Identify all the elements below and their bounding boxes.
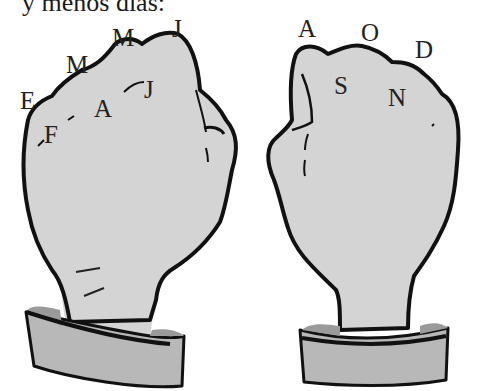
month-label-s: S xyxy=(334,73,348,98)
month-label-m: M xyxy=(112,25,134,50)
month-label-j: J xyxy=(144,77,154,102)
right-fist xyxy=(268,46,458,386)
month-label-a: A xyxy=(94,96,112,121)
month-label-j: J xyxy=(172,16,182,41)
month-label-d: D xyxy=(415,37,433,62)
month-label-m: M xyxy=(66,52,88,77)
month-label-o: O xyxy=(361,20,379,45)
month-label-e: E xyxy=(20,88,35,113)
month-label-n: N xyxy=(388,85,406,110)
month-label-a: A xyxy=(298,16,316,41)
left-fist xyxy=(24,33,236,387)
month-label-f: F xyxy=(44,122,58,147)
